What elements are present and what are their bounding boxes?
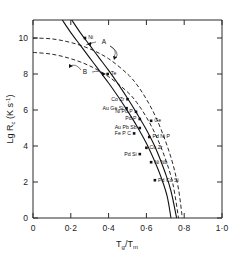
curve-annotation-b: B <box>69 64 106 76</box>
data-point-marker <box>150 120 153 123</box>
data-point: Te <box>106 70 116 76</box>
x-tick-label: 0 <box>31 223 36 233</box>
data-point: Pd Si <box>124 151 141 157</box>
y-title-unit: (K s <box>5 102 15 119</box>
y-tick-label: 6 <box>23 105 28 115</box>
svg-text:Tg/Tm: Tg/Tm <box>116 239 138 250</box>
y-tick-labels: 0 2 4 6 8 10 <box>19 33 29 223</box>
data-point-marker <box>150 161 153 164</box>
y-tick-label: 0 <box>23 213 28 223</box>
x-title-sub2: m <box>133 244 138 250</box>
data-point-marker <box>138 127 141 130</box>
x-tick-label: 1·0 <box>216 223 229 233</box>
y-tick-label: 2 <box>23 177 28 187</box>
data-point-marker <box>126 98 129 101</box>
x-tick-label: 0·8 <box>178 223 191 233</box>
y-tick-label: 4 <box>23 141 28 151</box>
data-point-marker <box>154 179 157 182</box>
y-title-close: ) <box>5 95 15 98</box>
y-tick-label: 10 <box>19 33 29 43</box>
x-tick-label: 0·2 <box>65 223 78 233</box>
svg-text:Lg Rc (K s-1): Lg Rc (K s-1) <box>5 95 16 144</box>
data-point-marker <box>106 73 109 76</box>
chart-figure: 0 2 4 6 8 10 0 0·2 0·4 0·6 0·8 1·0 Lg Rc… <box>0 0 236 257</box>
data-point-marker <box>133 132 136 135</box>
data-point-label: Ni Pd P <box>115 108 133 114</box>
data-point-label: Ni Nb <box>154 159 167 165</box>
y-title-main: Lg R <box>5 124 15 144</box>
data-point: Fe P C <box>115 130 136 136</box>
data-point-marker <box>138 118 141 121</box>
curve-b-label: B <box>83 68 87 75</box>
y-tick-label: 8 <box>23 69 28 79</box>
data-point-marker <box>135 111 138 114</box>
data-point-marker <box>138 153 141 156</box>
cooling-rate-scatter-chart: 0 2 4 6 8 10 0 0·2 0·4 0·6 0·8 1·0 Lg Rc… <box>0 0 236 257</box>
curve-A <box>33 38 182 218</box>
y-axis-title: Lg Rc (K s-1) <box>5 95 16 144</box>
data-point: Pd Cu Si <box>154 177 179 183</box>
data-point-label: Ge <box>154 117 161 123</box>
data-point: Ge <box>150 117 162 123</box>
data-point-marker <box>84 37 87 40</box>
x-axis-title: Tg/Tm <box>116 239 138 250</box>
data-point-label: Cu Zr <box>150 144 163 150</box>
data-point-marker <box>145 147 148 150</box>
data-point-label: Pd Ni P <box>152 133 170 139</box>
x-tick-label: 0·6 <box>140 223 153 233</box>
data-point-label: Pd P <box>125 115 137 121</box>
data-point-label: Ni <box>88 34 93 40</box>
data-point-label: Pd Cu Si <box>158 177 178 183</box>
curve-a-label: A <box>102 38 107 45</box>
x-tick-labels: 0 0·2 0·4 0·6 0·8 1·0 <box>31 223 229 233</box>
data-point-label: Pd Si <box>124 151 136 157</box>
data-point-label: Fe P C <box>115 130 131 136</box>
data-point-marker <box>148 136 151 139</box>
data-point-label: Te <box>111 70 117 76</box>
data-point: Ni Nb <box>150 159 168 165</box>
data-point-label: Co Zr <box>111 96 124 102</box>
x-tick-label: 0·4 <box>102 223 115 233</box>
